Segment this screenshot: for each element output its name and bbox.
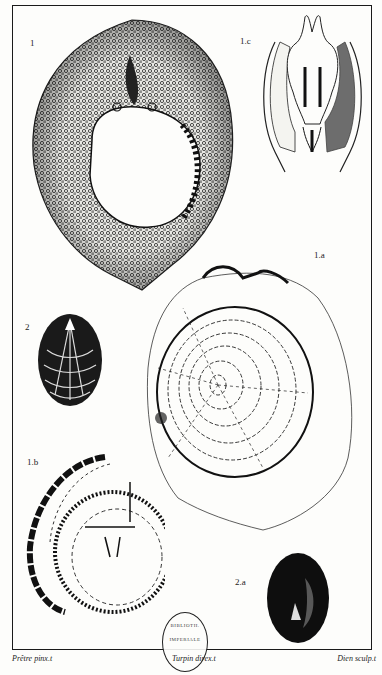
figure-label-2a: 2.a [235, 577, 246, 587]
stamp-text-2: IMPERIALE [163, 637, 207, 642]
credit-painter: Prêtre pinx.t [12, 654, 52, 663]
credit-director: Turpin direx.t [172, 654, 216, 663]
figure-1b-shell [25, 452, 165, 617]
figure-1-shell [22, 15, 242, 295]
figure-1a-shell [143, 258, 363, 533]
stamp-text-1: BIBLIOTH. [163, 623, 207, 628]
figure-2-shell [35, 310, 105, 410]
figure-label-1c: 1.c [240, 36, 251, 46]
figure-label-2: 2 [25, 322, 30, 332]
library-stamp: BIBLIOTH. IMPERIALE [162, 612, 208, 672]
figure-2a-shell [263, 548, 333, 648]
credit-engraver: Dien sculp.t [337, 654, 376, 663]
figure-1c-anatomy [255, 12, 370, 182]
